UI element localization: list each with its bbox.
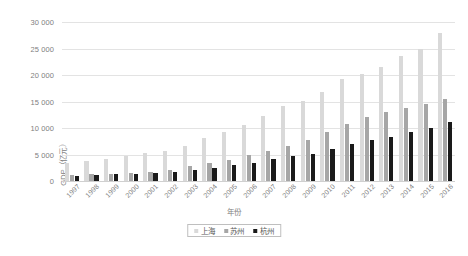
bar-杭州-2005	[232, 165, 236, 181]
x-axis-tick: 2006	[242, 183, 258, 199]
gdp-bar-chart: GDP（亿元） 30 00025 00020 00015 00010 0005 …	[0, 0, 468, 256]
x-axis-tick-labels: 1997199819992000200120022003200420052006…	[62, 183, 455, 207]
x-axis-tick: 2010	[320, 183, 336, 199]
x-axis-tick: 2016	[438, 183, 454, 199]
axis-baseline	[62, 181, 455, 182]
y-axis-tick: 10 000	[30, 124, 54, 133]
bar-上海-2004	[202, 138, 206, 181]
bar-杭州-2015	[429, 128, 433, 181]
x-axis-tick-cell: 1997	[62, 183, 82, 207]
legend-item-label: 苏州	[230, 225, 244, 236]
bar-group	[337, 22, 357, 181]
bar-上海-2007	[261, 116, 265, 181]
bar-杭州-2016	[448, 122, 452, 181]
x-axis-tick: 2008	[281, 183, 297, 199]
x-axis-tick-cell: 2013	[377, 183, 397, 207]
bar-杭州-2012	[370, 140, 374, 181]
legend-item-suzhou[interactable]: 苏州	[224, 225, 245, 236]
bar-group	[82, 22, 102, 181]
x-axis-tick: 2011	[340, 183, 356, 199]
legend-item-hangzhou[interactable]: 杭州	[253, 225, 274, 236]
bar-苏州-2004	[207, 163, 211, 181]
y-axis-tick: 5 000	[35, 150, 54, 159]
x-axis-tick: 2001	[143, 183, 159, 199]
bar-杭州-2003	[193, 170, 197, 181]
x-axis-tick-cell: 2003	[180, 183, 200, 207]
x-axis-tick: 1998	[84, 183, 100, 199]
bar-group	[239, 22, 259, 181]
bar-苏州-1999	[109, 174, 113, 181]
bar-杭州-2011	[350, 144, 354, 181]
bar-group	[219, 22, 239, 181]
bar-上海-2011	[340, 79, 344, 181]
bar-group	[396, 22, 416, 181]
bar-苏州-2014	[404, 108, 408, 181]
bar-苏州-2005	[227, 160, 231, 181]
bar-上海-2016	[438, 33, 442, 181]
y-axis-tick: 25 000	[30, 44, 54, 53]
x-axis-tick: 1997	[65, 183, 81, 199]
x-axis-tick-cell: 2006	[239, 183, 259, 207]
bar-杭州-1998	[94, 175, 98, 181]
bar-苏州-2006	[247, 155, 251, 181]
bar-苏州-2008	[286, 146, 290, 182]
bar-杭州-2008	[291, 156, 295, 181]
bar-group	[101, 22, 121, 181]
bar-苏州-2000	[129, 173, 133, 181]
bar-上海-1997	[65, 163, 69, 181]
y-axis-tick: 20 000	[30, 71, 54, 80]
bar-group	[357, 22, 377, 181]
x-axis-tick: 2007	[261, 183, 277, 199]
y-axis-tick-labels: 30 00025 00020 00015 00010 0005 0000	[14, 22, 58, 181]
bar-group	[416, 22, 436, 181]
x-axis-tick-cell: 2000	[121, 183, 141, 207]
bar-苏州-2007	[266, 151, 270, 181]
bar-group	[259, 22, 279, 181]
y-axis-tick: 15 000	[30, 97, 54, 106]
legend-item-shanghai[interactable]: 上海	[194, 225, 215, 236]
x-axis-tick-cell: 2016	[435, 183, 455, 207]
x-axis-tick-cell: 2012	[357, 183, 377, 207]
plot-area	[62, 22, 455, 181]
bars-layer	[62, 22, 455, 181]
x-axis-tick: 2013	[379, 183, 395, 199]
bar-苏州-2013	[384, 112, 388, 181]
x-axis-tick-cell: 2008	[278, 183, 298, 207]
x-axis-tick: 2004	[202, 183, 218, 199]
bar-group	[318, 22, 338, 181]
bar-苏州-1998	[89, 174, 93, 181]
bar-苏州-2011	[345, 124, 349, 181]
x-axis-tick: 2005	[222, 183, 238, 199]
bar-苏州-2003	[188, 166, 192, 181]
bar-苏州-2001	[148, 172, 152, 181]
bar-上海-2000	[124, 156, 128, 181]
bar-苏州-2002	[168, 170, 172, 181]
bar-苏州-2016	[443, 99, 447, 181]
x-axis-tick-cell: 2004	[200, 183, 220, 207]
bar-杭州-1999	[114, 174, 118, 181]
x-axis-tick-cell: 2007	[259, 183, 279, 207]
bar-苏州-2010	[325, 132, 329, 181]
x-axis-tick-cell: 2014	[396, 183, 416, 207]
bar-group	[200, 22, 220, 181]
bar-杭州-2002	[173, 172, 177, 181]
bar-杭州-2010	[330, 149, 334, 181]
bar-group	[141, 22, 161, 181]
x-axis-tick-cell: 2009	[298, 183, 318, 207]
bar-杭州-2007	[271, 159, 275, 181]
x-axis-tick: 2012	[360, 183, 376, 199]
x-axis-tick-cell: 2010	[318, 183, 338, 207]
y-axis-tick: 30 000	[30, 18, 54, 27]
x-axis-tick-cell: 1999	[101, 183, 121, 207]
bar-上海-2001	[143, 153, 147, 181]
x-axis-title: 年份	[0, 206, 468, 217]
legend-item-label: 上海	[201, 225, 215, 236]
bar-group	[435, 22, 455, 181]
bar-group	[121, 22, 141, 181]
bar-苏州-2015	[424, 104, 428, 181]
x-axis-tick-cell: 2015	[416, 183, 436, 207]
bar-group	[160, 22, 180, 181]
x-axis-tick: 1999	[104, 183, 120, 199]
legend-swatch-icon	[224, 229, 228, 233]
bar-上海-2015	[418, 49, 422, 181]
